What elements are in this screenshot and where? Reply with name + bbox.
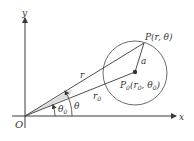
segment-r0-label: r0 bbox=[93, 91, 101, 102]
angle-theta-label: θ bbox=[74, 101, 80, 111]
y-axis-label: y bbox=[21, 8, 28, 18]
origin-label: O bbox=[15, 119, 23, 130]
point-P0 bbox=[133, 70, 137, 74]
angle-theta0-label: θ0 bbox=[58, 104, 67, 115]
segment-r-label: r bbox=[80, 70, 85, 80]
segment-a-label: a bbox=[141, 56, 146, 66]
segment-r bbox=[25, 43, 144, 116]
point-P0-label: P0(r0, θ0) bbox=[119, 80, 161, 91]
point-P-label: P(r, θ) bbox=[144, 32, 173, 42]
angle-theta0-arc bbox=[53, 105, 55, 116]
polar-diagram: y x O P(r, θ) P0(r0, θ0) a r r0 θ θ0 bbox=[0, 0, 194, 141]
x-axis-label: x bbox=[179, 112, 184, 122]
